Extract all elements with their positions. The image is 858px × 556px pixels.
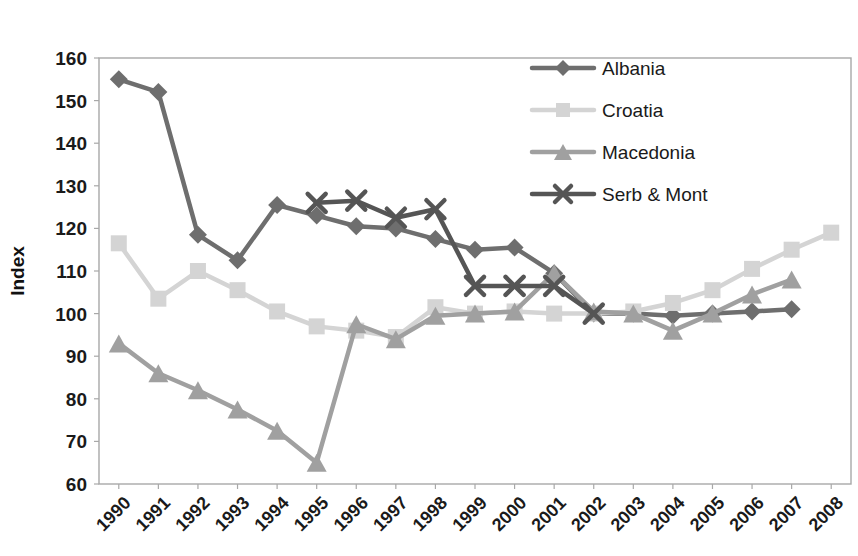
- x-tick-label: 2000: [488, 493, 530, 535]
- data-point-marker: [426, 230, 444, 248]
- y-tick-label: 100: [55, 304, 87, 325]
- data-point-marker: [546, 306, 562, 322]
- data-point-marker: [663, 322, 683, 340]
- x-tick-label: 1999: [448, 493, 490, 535]
- y-tick-label: 110: [56, 261, 87, 282]
- y-tick-label: 150: [55, 91, 87, 112]
- y-tick-label: 120: [55, 218, 87, 239]
- data-point-marker: [466, 241, 484, 259]
- data-point-marker: [823, 225, 839, 241]
- x-tick-label: 1991: [132, 493, 174, 535]
- data-series-group: [109, 70, 839, 471]
- y-tick-label: 60: [66, 474, 87, 495]
- data-point-marker: [743, 302, 761, 320]
- x-tick-label: 1995: [290, 493, 332, 535]
- data-point-marker: [742, 285, 762, 303]
- data-point-marker: [149, 83, 167, 101]
- data-point-marker: [188, 381, 208, 399]
- legend-item-croatia: Croatia: [532, 100, 664, 121]
- x-axis: 1990199119921993199419951996199719981999…: [92, 484, 847, 535]
- y-tick-label: 80: [66, 389, 87, 410]
- series-serb-mont: [308, 192, 603, 323]
- x-tick-label: 2005: [686, 493, 728, 535]
- x-tick-label: 2001: [528, 493, 570, 535]
- y-tick-label: 70: [66, 431, 87, 452]
- legend-item-albania: Albania: [532, 58, 666, 79]
- x-tick-label: 1998: [409, 493, 451, 535]
- plot-border: [99, 58, 851, 484]
- legend-label: Albania: [602, 58, 666, 79]
- series-line: [317, 201, 594, 314]
- legend-item-serb-mont: Serb & Mont: [532, 184, 708, 205]
- data-point-marker: [150, 291, 166, 307]
- data-point-marker: [110, 70, 128, 88]
- data-point-marker: [230, 282, 246, 298]
- data-point-marker: [309, 318, 325, 334]
- data-point-marker: [111, 235, 127, 251]
- data-point-marker: [109, 334, 129, 352]
- data-point-marker: [269, 303, 285, 319]
- data-point-marker: [782, 271, 802, 289]
- x-tick-label: 1997: [369, 493, 411, 535]
- data-point-marker: [347, 217, 365, 235]
- data-point-marker: [784, 242, 800, 258]
- x-tick-label: 1994: [250, 493, 292, 535]
- line-chart: 60708090100110120130140150160 1990199119…: [0, 0, 858, 556]
- y-axis: 60708090100110120130140150160: [55, 48, 99, 495]
- y-tick-label: 160: [55, 48, 87, 69]
- legend-marker: [555, 60, 571, 76]
- data-point-marker: [704, 282, 720, 298]
- y-tick-label: 130: [55, 176, 87, 197]
- x-tick-label: 2007: [765, 493, 807, 535]
- data-point-marker: [665, 295, 681, 311]
- x-tick-label: 2008: [805, 493, 847, 535]
- data-point-marker: [744, 261, 760, 277]
- plot-area: [99, 58, 851, 484]
- legend-label: Macedonia: [602, 142, 695, 163]
- legend-item-macedonia: Macedonia: [532, 142, 695, 163]
- y-tick-label: 140: [55, 133, 87, 154]
- legend-label: Croatia: [602, 100, 664, 121]
- data-point-marker: [783, 300, 801, 318]
- x-tick-label: 2003: [607, 493, 649, 535]
- x-tick-label: 2002: [567, 493, 609, 535]
- chart-canvas: 60708090100110120130140150160 1990199119…: [0, 0, 858, 556]
- data-point-marker: [190, 263, 206, 279]
- data-point-marker: [228, 400, 248, 418]
- x-tick-label: 2006: [725, 493, 767, 535]
- legend-label: Serb & Mont: [602, 184, 708, 205]
- chart-legend: AlbaniaCroatiaMacedoniaSerb & Mont: [532, 58, 708, 205]
- legend-marker: [556, 103, 570, 117]
- x-tick-label: 1993: [211, 493, 253, 535]
- y-tick-label: 90: [66, 346, 87, 367]
- x-tick-label: 1990: [92, 493, 134, 535]
- x-tick-label: 1996: [330, 493, 372, 535]
- x-tick-label: 2004: [646, 493, 688, 535]
- series-line: [119, 273, 792, 463]
- y-axis-title: Index: [7, 246, 28, 296]
- x-tick-label: 1992: [171, 493, 213, 535]
